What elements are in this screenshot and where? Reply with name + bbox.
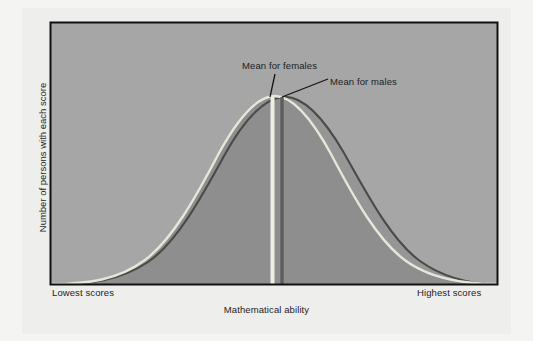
x-axis-label: Mathematical ability xyxy=(0,305,533,315)
x-axis-right-label: Highest scores xyxy=(417,288,481,298)
figure-root: Number of persons with each score Lowest… xyxy=(0,0,533,341)
annotation-mean-for-males: Mean for males xyxy=(330,77,397,87)
annotation-mean-for-females: Mean for females xyxy=(242,61,317,71)
y-axis-label: Number of persons with each score xyxy=(37,48,48,268)
x-axis-left-label: Lowest scores xyxy=(52,288,114,298)
